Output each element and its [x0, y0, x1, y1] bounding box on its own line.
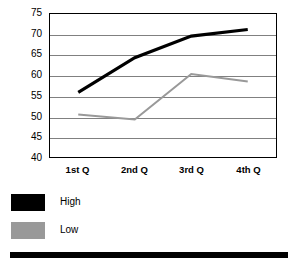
chart-legend: HighLow	[11, 191, 161, 247]
bottom-rule	[10, 252, 288, 258]
legend-label: High	[60, 197, 81, 207]
y-tick-label: 45	[0, 132, 42, 142]
series-line-high	[78, 30, 248, 93]
x-tick-label: 2nd Q	[105, 164, 165, 175]
legend-item-low[interactable]: Low	[11, 219, 161, 241]
x-tick-label: 1st Q	[48, 164, 108, 175]
line-chart-figure: 4045505560657075 1st Q2nd Q3rd Q4th Q Hi…	[0, 0, 295, 265]
legend-swatch-low	[11, 222, 45, 239]
plot-wrapper: 4045505560657075 1st Q2nd Q3rd Q4th Q	[0, 0, 295, 172]
y-tick-label: 40	[0, 153, 42, 163]
x-tick-label: 4th Q	[219, 164, 279, 175]
x-tick-label: 3rd Q	[162, 164, 222, 175]
y-tick-label: 65	[0, 49, 42, 59]
plot-area	[49, 13, 277, 158]
y-axis-tick-labels: 4045505560657075	[0, 13, 44, 158]
y-tick-label: 50	[0, 112, 42, 122]
y-tick-label: 75	[0, 8, 42, 18]
legend-item-high[interactable]: High	[11, 191, 161, 213]
y-tick-label: 60	[0, 70, 42, 80]
y-tick-label: 55	[0, 91, 42, 101]
series-lines	[50, 14, 276, 157]
y-tick-label: 70	[0, 29, 42, 39]
x-axis-tick-labels: 1st Q2nd Q3rd Q4th Q	[49, 164, 277, 180]
legend-label: Low	[60, 225, 78, 235]
series-line-low	[78, 74, 248, 119]
legend-swatch-high	[11, 194, 45, 211]
